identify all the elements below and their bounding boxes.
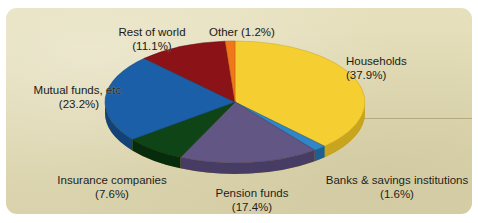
pie-label-insurance-companies-value: (7.6%) — [36, 188, 188, 202]
pie-label-rest-of-world-name: Rest of world — [98, 26, 206, 40]
pie-label-households: Households (37.9%) — [346, 55, 456, 82]
pie-label-other-name: Other (1.2%) — [209, 26, 309, 40]
pie-label-households-value: (37.9%) — [346, 69, 456, 83]
pie-label-rest-of-world: Rest of world (11.1%) — [98, 26, 206, 53]
pie-label-mutual-funds: Mutual funds, etc. (23.2%) — [20, 84, 138, 111]
pie-label-banks: Banks & savings institutions (1.6%) — [316, 174, 472, 201]
pie-label-rest-of-world-value: (11.1%) — [98, 40, 206, 54]
pie-label-mutual-funds-value: (23.2%) — [20, 98, 138, 112]
pie-label-pension-funds-name: Pension funds — [202, 187, 302, 201]
chart-panel: Rest of world (11.1%) Other (1.2%) House… — [6, 8, 472, 214]
pie-label-insurance-companies: Insurance companies (7.6%) — [36, 174, 188, 201]
pie-label-mutual-funds-name: Mutual funds, etc. — [20, 84, 138, 98]
pie-label-households-name: Households — [346, 55, 456, 69]
pie-label-other: Other (1.2%) — [209, 26, 309, 40]
pie-label-banks-name: Banks & savings institutions — [316, 174, 472, 188]
pie-label-pension-funds-value: (17.4%) — [202, 201, 302, 215]
pie-label-insurance-companies-name: Insurance companies — [36, 174, 188, 188]
pie-label-pension-funds: Pension funds (17.4%) — [202, 187, 302, 214]
pie-top-face — [105, 41, 365, 163]
pie-label-banks-value: (1.6%) — [316, 188, 472, 202]
screenshot-root: Rest of world (11.1%) Other (1.2%) House… — [0, 0, 478, 223]
